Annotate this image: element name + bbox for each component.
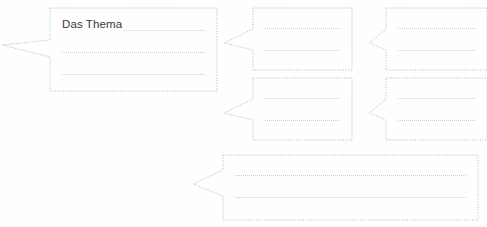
branch-bubble-2-outline bbox=[0, 0, 487, 227]
main-topic-bubble-outline bbox=[0, 0, 487, 227]
worksheet-canvas: Das Thema bbox=[0, 0, 487, 227]
branch-bubble-4-border bbox=[369, 78, 487, 140]
branch-bubble-5-border bbox=[193, 155, 478, 220]
branch-bubble-3-write-line[interactable] bbox=[265, 98, 340, 99]
branch-bubble-1-border bbox=[224, 8, 352, 70]
main-topic-bubble-write-line[interactable] bbox=[62, 52, 205, 53]
branch-bubble-1-write-line[interactable] bbox=[265, 50, 340, 51]
branch-bubble-4[interactable] bbox=[0, 0, 487, 227]
branch-bubble-5[interactable] bbox=[0, 0, 487, 227]
branch-bubble-2-write-line[interactable] bbox=[398, 50, 475, 51]
branch-bubble-2[interactable] bbox=[0, 0, 487, 227]
main-topic-bubble-write-line[interactable] bbox=[62, 74, 205, 75]
main-topic-bubble[interactable] bbox=[0, 0, 487, 227]
branch-bubble-3-border bbox=[224, 78, 352, 140]
branch-bubble-3-write-line[interactable] bbox=[265, 120, 340, 121]
branch-bubble-1-outline bbox=[0, 0, 487, 227]
branch-bubble-4-outline bbox=[0, 0, 487, 227]
branch-bubble-5-write-line[interactable] bbox=[235, 197, 466, 198]
branch-bubble-4-write-line[interactable] bbox=[398, 98, 475, 99]
branch-bubble-3[interactable] bbox=[0, 0, 487, 227]
branch-bubble-3-outline bbox=[0, 0, 487, 227]
branch-bubble-5-outline bbox=[0, 0, 487, 227]
branch-bubble-4-write-line[interactable] bbox=[398, 120, 475, 121]
branch-bubble-1-write-line[interactable] bbox=[265, 28, 340, 29]
topic-label[interactable]: Das Thema bbox=[62, 18, 124, 31]
branch-bubble-2-border bbox=[369, 8, 487, 70]
branch-bubble-5-write-line[interactable] bbox=[235, 175, 466, 176]
branch-bubble-2-write-line[interactable] bbox=[398, 28, 475, 29]
branch-bubble-1[interactable] bbox=[0, 0, 487, 227]
